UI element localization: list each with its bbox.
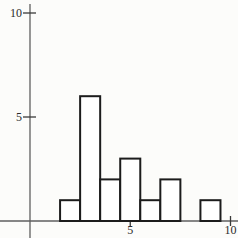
y-axis-tick-label: 10: [10, 6, 22, 20]
histogram-bar: [200, 200, 220, 221]
x-axis-tick-label: 5: [127, 223, 133, 237]
histogram-figure: 510510: [0, 0, 238, 238]
x-axis-tick-label: 10: [225, 223, 237, 237]
histogram-bar: [140, 200, 160, 221]
y-axis-tick-label: 5: [16, 110, 22, 124]
histogram-bar: [100, 179, 120, 221]
histogram-bar: [160, 179, 180, 221]
histogram-bar: [60, 200, 80, 221]
histogram-bar: [80, 96, 100, 221]
histogram-chart: 510510: [0, 0, 238, 238]
histogram-bar: [120, 159, 140, 221]
